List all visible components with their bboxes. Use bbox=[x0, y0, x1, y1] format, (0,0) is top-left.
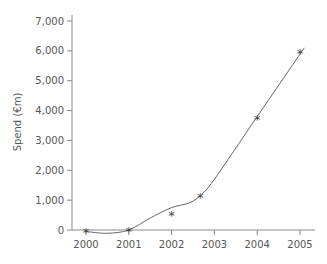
y-tick-label: 5,000 bbox=[35, 75, 64, 86]
data-point-marker: * bbox=[297, 46, 304, 61]
data-point-marker: * bbox=[168, 208, 175, 223]
data-point-marker: * bbox=[197, 190, 204, 205]
y-tick-label: 7,000 bbox=[35, 16, 64, 27]
y-tick-label: 4,000 bbox=[35, 105, 64, 116]
x-tick-label: 2003 bbox=[202, 239, 227, 250]
data-point-marker: * bbox=[126, 224, 133, 239]
y-tick-label: 0 bbox=[58, 225, 64, 236]
y-tick-label: 3,000 bbox=[35, 135, 64, 146]
y-tick-label: 2,000 bbox=[35, 165, 64, 176]
x-tick-label: 2001 bbox=[116, 239, 141, 250]
x-tick-label: 2000 bbox=[73, 239, 98, 250]
data-point-marker: * bbox=[254, 112, 261, 127]
y-axis-ticks: 01,0002,0003,0004,0005,0006,0007,000 bbox=[35, 16, 72, 236]
x-tick-label: 2004 bbox=[244, 239, 269, 250]
y-tick-label: 6,000 bbox=[35, 45, 64, 56]
spend-chart: 01,0002,0003,0004,0005,0006,0007,000 200… bbox=[0, 0, 327, 264]
y-tick-label: 1,000 bbox=[35, 195, 64, 206]
y-axis-title: Spend (€m) bbox=[12, 93, 23, 152]
data-markers: ****** bbox=[83, 46, 304, 240]
trend-line bbox=[86, 48, 304, 233]
x-tick-label: 2002 bbox=[159, 239, 184, 250]
x-tick-label: 2005 bbox=[287, 239, 312, 250]
data-point-marker: * bbox=[83, 225, 90, 240]
